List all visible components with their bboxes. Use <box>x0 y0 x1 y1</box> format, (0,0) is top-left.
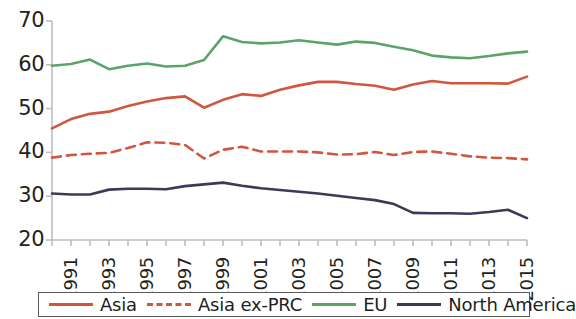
legend-label: EU <box>363 296 387 314</box>
series-line-north-america <box>52 183 527 218</box>
legend-swatch-icon <box>49 303 93 306</box>
legend-label: Asia <box>100 296 137 314</box>
legend-item[interactable]: North America <box>387 293 576 316</box>
y-axis: 203040506070 <box>0 0 44 252</box>
y-tick-label: 40 <box>0 141 44 162</box>
legend-swatch-icon <box>397 303 441 306</box>
legend-item[interactable]: EU <box>302 293 387 316</box>
legend: AsiaAsia ex-PRCEUNorth America <box>38 292 530 317</box>
legend-swatch-icon <box>312 303 356 306</box>
axis-spine <box>52 21 527 240</box>
legend-item[interactable]: Asia ex-PRC <box>137 293 302 316</box>
y-tick-label: 20 <box>0 229 44 250</box>
legend-swatch-icon <box>147 303 191 306</box>
series-line-asia <box>52 77 527 129</box>
y-tick-label: 30 <box>0 185 44 206</box>
series-line-eu <box>52 36 527 69</box>
y-tick-label: 60 <box>0 54 44 75</box>
series-line-asia-ex-prc <box>52 142 527 159</box>
x-axis: 1991199319951997199920012003200520072009… <box>0 248 533 292</box>
y-tick-label: 50 <box>0 98 44 119</box>
legend-label: Asia ex-PRC <box>198 296 302 314</box>
plot-area <box>0 0 533 252</box>
y-tick-label: 70 <box>0 10 44 31</box>
legend-label: North America <box>448 296 576 314</box>
plot-svg <box>0 0 533 252</box>
legend-item[interactable]: Asia <box>39 293 137 316</box>
